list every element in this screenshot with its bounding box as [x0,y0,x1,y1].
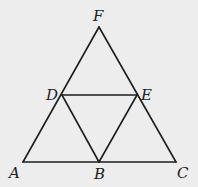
triangle-diagram: F D E A B C [0,0,198,187]
label-F: F [92,7,104,25]
segment-DB [62,95,99,162]
label-D: D [45,86,58,104]
label-B: B [93,165,105,183]
label-C: C [177,164,189,182]
label-E: E [140,86,152,104]
label-A: A [7,164,20,182]
segment-EB [99,95,137,162]
